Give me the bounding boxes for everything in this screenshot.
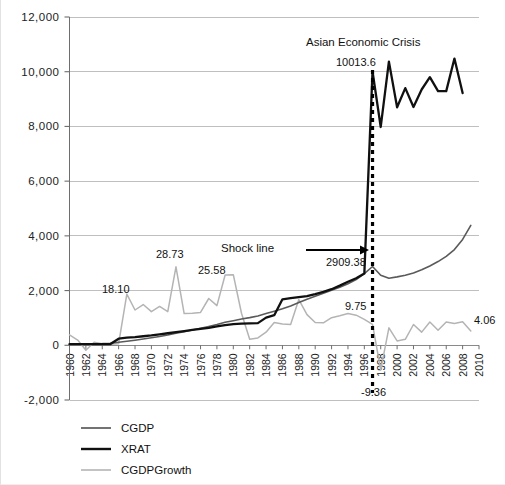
x-tick-label-1992: 1992 [326,353,338,377]
gridlines [70,17,480,400]
annotation-shock-line-label: Shock line [221,242,274,254]
x-axis-ticks [70,345,480,349]
series-line-xrat [70,59,463,345]
y-tick-label-12000: 12,000 [21,11,59,23]
annotation-growth-2009-value: 4.06 [474,314,495,326]
x-tick-label-2008: 2008 [457,353,469,377]
annotation-growth-1967-peak: 18.10 [102,283,130,295]
y-tick-label-4000: 4,000 [28,230,59,242]
y-tick-label-0: 0 [53,339,60,351]
annotation-growth-1998-value: -9.36 [361,386,386,398]
x-tick-label-2000: 2000 [391,353,403,377]
line-chart: 12,00010,0008,0006,0004,0002,0000-2,000 … [1,0,505,485]
x-tick-label-1978: 1978 [211,353,223,377]
annotation-growth-1972-peak: 28.73 [156,248,184,260]
x-tick-label-1970: 1970 [145,353,157,377]
x-tick-label-1986: 1986 [276,353,288,377]
chart-page: 12,00010,0008,0006,0004,0002,0000-2,000 … [0,0,505,485]
annotation-asian-economic-crisis: Asian Economic Crisis [306,36,421,48]
x-tick-label-2006: 2006 [440,353,452,377]
x-tick-label-1996: 1996 [358,353,370,377]
legend: CGDPXRATCGDPGrowth [81,422,191,476]
y-tick-label--2000: -2,000 [24,394,60,406]
x-tick-label-1990: 1990 [309,353,321,377]
y-axis-labels: 12,00010,0008,0006,0004,0002,0000-2,000 [21,11,69,406]
x-tick-label-1988: 1988 [293,353,305,377]
y-tick-label-10000: 10,000 [21,66,59,78]
x-tick-label-2004: 2004 [424,353,436,377]
annotation-growth-1996-value: 9.75 [345,300,366,312]
x-tick-label-1976: 1976 [195,353,207,377]
x-tick-label-1966: 1966 [113,353,125,377]
y-tick-label-2000: 2,000 [28,285,59,297]
annotation-cgdp-shock-value: 2909.38 [326,256,366,268]
x-tick-label-2002: 2002 [407,353,419,377]
legend-label-cgdpgrowth: CGDPGrowth [121,464,191,476]
data-series [70,59,471,370]
x-tick-label-1982: 1982 [244,353,256,377]
shock-line-group [306,70,373,393]
annotation-xrat-peak-value: 10013.6 [336,56,376,68]
x-tick-label-1962: 1962 [80,353,92,377]
legend-label-xrat: XRAT [121,443,151,455]
x-tick-label-1964: 1964 [96,353,108,377]
legend-label-cgdp: CGDP [121,422,155,434]
x-tick-label-1974: 1974 [178,353,190,377]
x-tick-label-1972: 1972 [162,353,174,377]
y-tick-label-8000: 8,000 [28,120,59,132]
x-tick-label-2010: 2010 [473,353,485,377]
y-tick-label-6000: 6,000 [28,175,59,187]
annotation-growth-1979-peak: 25.58 [198,264,226,276]
x-tick-label-1968: 1968 [129,353,141,377]
x-axis-labels: 1960196219641966196819701972197419761978… [64,353,486,377]
x-tick-label-1998: 1998 [375,353,387,377]
x-tick-label-1984: 1984 [260,353,272,377]
x-tick-label-1994: 1994 [342,353,354,377]
x-tick-label-1980: 1980 [227,353,239,377]
